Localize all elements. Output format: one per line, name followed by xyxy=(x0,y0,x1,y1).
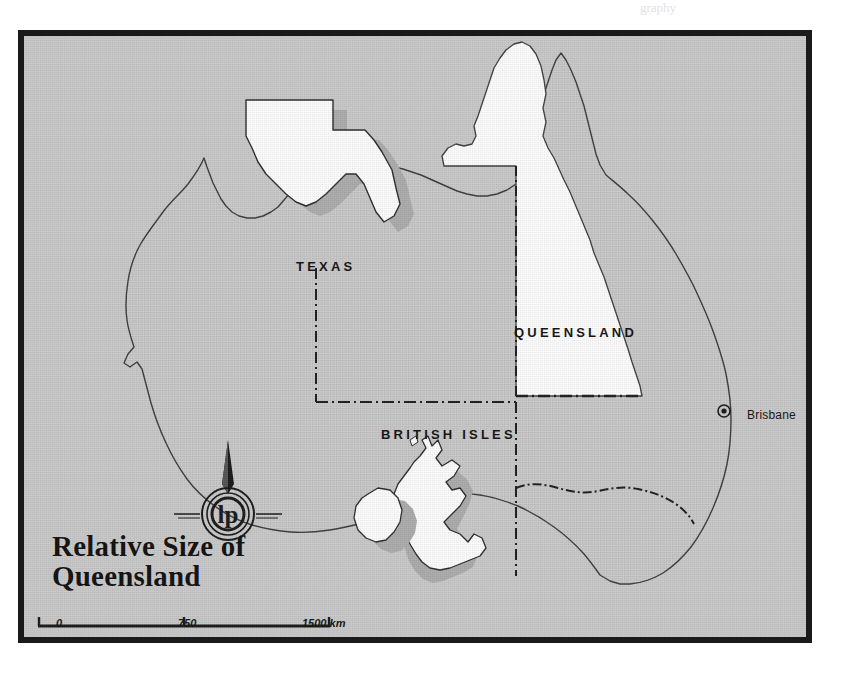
city-label-brisbane: Brisbane xyxy=(747,408,796,422)
lp-logo-text: lp xyxy=(218,501,239,528)
north-needle-light xyxy=(222,440,228,494)
page-bleed-area: graphy xyxy=(0,0,842,30)
scale-bar: 0 750 1500 km xyxy=(56,617,348,643)
scale-label-750: 750 xyxy=(178,617,196,629)
map-title-line2: Queensland xyxy=(52,562,245,592)
brisbane-marker-dot xyxy=(721,408,726,413)
scale-label-0: 0 xyxy=(56,617,62,629)
map-figure-frame: lp TEXAS QUEENSLAND BRITISH ISLES Brisba… xyxy=(18,30,812,643)
scale-label-1500: 1500 km xyxy=(302,617,345,629)
map-canvas[interactable]: lp TEXAS QUEENSLAND BRITISH ISLES Brisba… xyxy=(24,36,806,637)
bleed-text: graphy xyxy=(640,0,676,16)
map-title-line1: Relative Size of xyxy=(52,530,245,562)
map-title: Relative Size of Queensland xyxy=(52,532,245,591)
